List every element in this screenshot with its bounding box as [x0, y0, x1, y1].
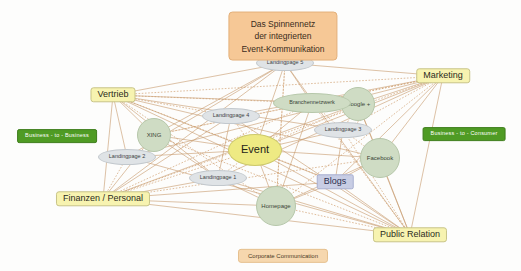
node-landingpage-1[interactable]: Landingpage 1 — [189, 170, 247, 186]
node-label: Homepage — [261, 203, 290, 209]
title-line-1: Das Spinnennetz — [251, 18, 316, 30]
edge-marketing-to-public-relation — [410, 76, 443, 235]
node-branchennetzwerk[interactable]: Branchennetzwerk — [273, 93, 351, 113]
node-label: Landingpage 5 — [267, 60, 303, 66]
node-public-relation[interactable]: Public Relation — [373, 227, 447, 242]
spider-web-diagram: EventVertriebMarketingFinanzen / Persona… — [0, 0, 521, 271]
node-label: Landingpage 1 — [200, 175, 236, 181]
node-event[interactable]: Event — [228, 134, 282, 166]
node-blogs[interactable]: Blogs — [317, 174, 354, 189]
node-landingpage-2[interactable]: Landingpage 2 — [98, 149, 156, 165]
node-label: Public Relation — [380, 230, 440, 239]
node-b2c[interactable]: Business - to - Consumer — [423, 127, 506, 141]
node-landingpage-4[interactable]: Landingpage 4 — [202, 108, 260, 124]
edge-xing-to-landingpage-5 — [154, 63, 285, 135]
edge-vertrieb-to-finanzen — [103, 95, 113, 199]
node-label: Marketing — [423, 71, 463, 80]
diagram-title: Das Spinnennetz der integrierten Event-K… — [228, 12, 337, 61]
node-label: Landingpage 3 — [325, 127, 361, 133]
node-label: Landingpage 2 — [109, 154, 145, 160]
node-marketing[interactable]: Marketing — [416, 68, 470, 83]
node-vertrieb[interactable]: Vertrieb — [90, 87, 135, 102]
node-homepage[interactable]: Homepage — [256, 186, 296, 226]
node-label: Vertrieb — [97, 90, 128, 99]
title-line-3: Event-Kommunikation — [241, 42, 324, 54]
node-label: Finanzen / Personal — [63, 194, 143, 203]
corporate-communication-label: Corporate Communication — [238, 249, 328, 263]
node-b2b[interactable]: Business - to - Business — [17, 129, 97, 143]
title-line-2: der integrierten — [254, 30, 311, 42]
node-label: Business - to - Consumer — [431, 131, 498, 137]
node-label: Blogs — [324, 177, 347, 186]
node-label: Business - to - Business — [25, 133, 89, 139]
node-label: XING — [147, 132, 162, 138]
node-label: Facebook — [367, 155, 393, 161]
node-label: Landingpage 4 — [213, 113, 249, 119]
node-finanzen[interactable]: Finanzen / Personal — [56, 191, 150, 206]
node-label: Event — [241, 144, 269, 156]
node-label: Branchennetzwerk — [289, 100, 335, 106]
edge-vertrieb-to-landingpage-5 — [113, 63, 285, 95]
node-xing[interactable]: XING — [137, 118, 171, 152]
node-facebook[interactable]: Facebook — [360, 138, 400, 178]
node-landingpage-3[interactable]: Landingpage 3 — [314, 122, 372, 138]
